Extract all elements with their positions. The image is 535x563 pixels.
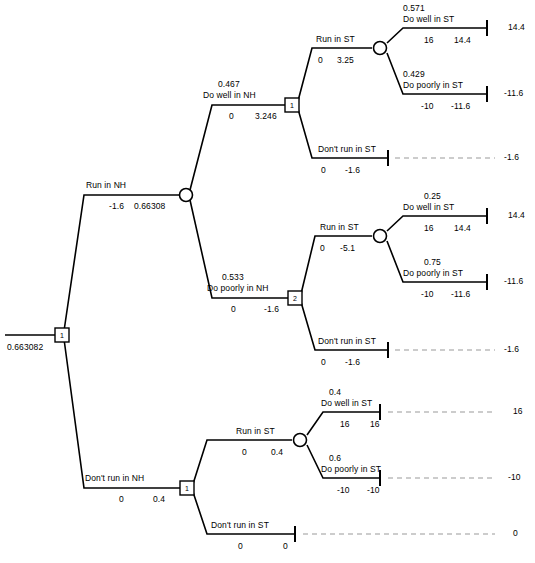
cost-bot-do-poorly-in-st: -10 — [337, 485, 350, 495]
value-mid-do-well-in-st: 14.4 — [454, 223, 471, 233]
label-do-poorly-in-nh: Do poorly in NH — [207, 283, 269, 293]
chance-node-bottom-run-in-st[interactable] — [294, 434, 307, 447]
prob-top-do-well-in-st: 0.571 — [403, 3, 425, 13]
label-bot-run-in-st: Run in ST — [236, 426, 275, 436]
value-bot-dont-run-in-st: 0 — [283, 541, 288, 551]
label-do-well-in-nh: Do well in NH — [203, 90, 256, 100]
value-run-in-nh: 0.66308 — [134, 201, 165, 211]
value-bot-run-in-st: 0.4 — [271, 447, 283, 457]
payoff-top-do-poorly-in-st: -11.6 — [504, 88, 523, 98]
branch-run-in-nh — [64, 195, 140, 331]
cost-top-do-well-in-st: 16 — [424, 35, 434, 45]
value-top-do-poorly-in-st: -11.6 — [451, 101, 470, 111]
label-bot-dont-run-in-st: Don't run in ST — [211, 520, 269, 530]
cost-do-poorly-in-nh: 0 — [231, 304, 236, 314]
prob-do-well-in-nh: 0.467 — [218, 79, 240, 89]
prob-do-poorly-in-nh: 0.533 — [222, 272, 244, 282]
chance-node-middle-run-in-st[interactable] — [374, 230, 387, 243]
prob-bot-do-poorly-in-st: 0.6 — [329, 453, 341, 463]
payoff-bot-dont-run-in-st: 0 — [513, 528, 518, 538]
cost-dont-run-in-nh: 0 — [119, 494, 124, 504]
cost-top-dont-run-in-st: 0 — [321, 165, 326, 175]
value-bot-do-well-in-st: 16 — [370, 419, 380, 429]
label-top-dont-run-in-st: Don't run in ST — [318, 144, 376, 154]
cost-bot-do-well-in-st: 16 — [340, 419, 350, 429]
root-value: 0.663082 — [7, 342, 43, 352]
label-mid-do-well-in-st: Do well in ST — [403, 202, 454, 212]
branch-dont-run-in-nh — [64, 339, 140, 488]
cost-mid-dont-run-in-st: 0 — [321, 357, 326, 367]
label-top-run-in-st: Run in ST — [316, 34, 355, 44]
label-run-in-nh: Run in NH — [86, 180, 126, 190]
value-top-do-well-in-st: 14.4 — [454, 35, 471, 45]
value-mid-do-poorly-in-st: -11.6 — [451, 289, 470, 299]
chance-node-top-run-in-st[interactable] — [374, 42, 387, 55]
cost-run-in-nh: -1.6 — [109, 201, 124, 211]
value-top-dont-run-in-st: -1.6 — [345, 165, 360, 175]
chance-node-run-in-nh[interactable] — [180, 189, 193, 202]
branch-top-do-well-in-st — [387, 28, 487, 43]
value-do-well-in-nh: 3.246 — [255, 111, 277, 121]
label-mid-run-in-st: Run in ST — [320, 222, 359, 232]
cost-bot-dont-run-in-st: 0 — [238, 541, 243, 551]
value-mid-dont-run-in-st: -1.6 — [345, 357, 360, 367]
decision-node-root-label: 1 — [55, 331, 69, 340]
cost-do-well-in-nh: 0 — [229, 111, 234, 121]
value-bot-do-poorly-in-st: -10 — [367, 485, 380, 495]
cost-bot-run-in-st: 0 — [242, 447, 247, 457]
branch-mid-do-well-in-st — [387, 216, 487, 231]
payoff-mid-dont-run-in-st: -1.6 — [504, 344, 519, 354]
value-dont-run-in-nh: 0.4 — [153, 494, 165, 504]
cost-mid-do-poorly-in-st: -10 — [421, 289, 434, 299]
payoff-bot-do-poorly-in-st: -10 — [508, 472, 521, 482]
payoff-mid-do-well-in-st: 14.4 — [508, 210, 525, 220]
prob-mid-do-well-in-st: 0.25 — [424, 191, 441, 201]
label-mid-do-poorly-in-st: Do poorly in ST — [403, 268, 463, 278]
label-top-do-poorly-in-st: Do poorly in ST — [403, 80, 463, 90]
branch-mid-run-in-st — [301, 236, 372, 294]
decision-node-top-label: 1 — [285, 101, 299, 110]
label-top-do-well-in-st: Do well in ST — [403, 14, 454, 24]
value-top-run-in-st: 3.25 — [337, 55, 354, 65]
cost-mid-do-well-in-st: 16 — [424, 223, 434, 233]
value-do-poorly-in-nh: -1.6 — [264, 304, 279, 314]
cost-top-run-in-st: 0 — [318, 55, 323, 65]
label-bot-do-poorly-in-st: Do poorly in ST — [321, 464, 381, 474]
label-dont-run-in-nh: Don't run in NH — [85, 473, 144, 483]
decision-node-bottom-label: 1 — [180, 484, 194, 493]
payoff-bot-do-well-in-st: 16 — [513, 406, 523, 416]
branch-top-run-in-st — [298, 48, 372, 101]
label-bot-do-well-in-st: Do well in ST — [321, 398, 372, 408]
cost-top-do-poorly-in-st: -10 — [421, 101, 434, 111]
cost-mid-run-in-st: 0 — [320, 243, 325, 253]
prob-top-do-poorly-in-st: 0.429 — [403, 69, 425, 79]
label-mid-dont-run-in-st: Don't run in ST — [318, 336, 376, 346]
prob-bot-do-well-in-st: 0.4 — [329, 387, 341, 397]
decision-node-middle-label: 2 — [288, 294, 302, 303]
payoff-mid-do-poorly-in-st: -11.6 — [504, 276, 523, 286]
prob-mid-do-poorly-in-st: 0.75 — [424, 257, 441, 267]
payoff-top-do-well-in-st: 14.4 — [508, 22, 525, 32]
payoff-top-dont-run-in-st: -1.6 — [504, 152, 519, 162]
value-mid-run-in-st: -5.1 — [340, 243, 355, 253]
